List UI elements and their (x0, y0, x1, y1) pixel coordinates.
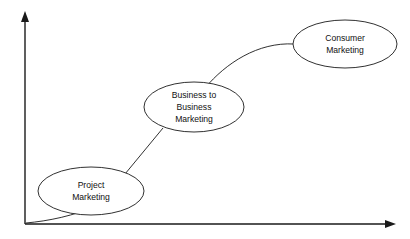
node-project-marketing[interactable]: Project Marketing (38, 167, 144, 215)
node-business-to-business-marketing[interactable]: Business to Business Marketing (144, 82, 244, 132)
y-axis-arrow-icon (21, 11, 29, 22)
node-business-to-business-marketing-label-line-3: Marketing (175, 114, 213, 124)
connector-business-to-consumer (205, 44, 294, 88)
diagram-canvas: Project Marketing Business to Business M… (0, 0, 410, 239)
node-consumer-marketing-shape[interactable] (293, 20, 397, 68)
connector-project-to-business (125, 128, 163, 174)
node-consumer-marketing[interactable]: Consumer Marketing (293, 20, 397, 68)
node-project-marketing-label-line-1: Project (78, 180, 105, 190)
marketing-progression-diagram: Project Marketing Business to Business M… (0, 0, 410, 239)
node-business-to-business-marketing-label-line-2: Business (177, 102, 212, 112)
x-axis-arrow-icon (385, 220, 396, 228)
node-project-marketing-label-line-2: Marketing (72, 192, 110, 202)
node-business-to-business-marketing-label-line-1: Business to (172, 90, 217, 100)
node-consumer-marketing-label-line-1: Consumer (325, 33, 365, 43)
node-project-marketing-shape[interactable] (38, 167, 144, 215)
node-consumer-marketing-label-line-2: Marketing (326, 45, 364, 55)
